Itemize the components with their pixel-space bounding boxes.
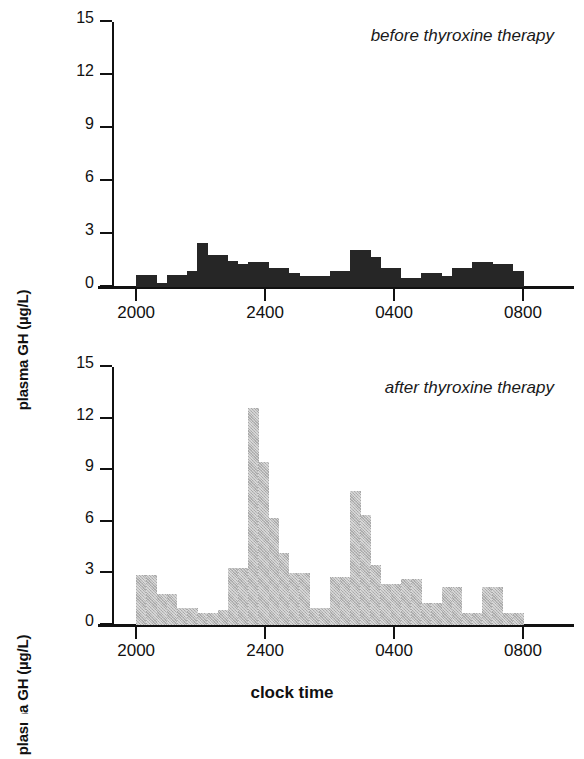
bar <box>279 268 290 287</box>
bar <box>146 575 157 625</box>
bar <box>136 275 147 287</box>
x-axis-label: clock time <box>0 683 584 703</box>
bar <box>207 255 218 287</box>
bar <box>360 515 371 625</box>
y-tick-12: 12 <box>100 417 112 419</box>
y-tick-label-6: 6 <box>85 168 94 186</box>
bar <box>452 587 463 625</box>
bar <box>197 243 208 287</box>
bar <box>289 573 300 625</box>
y-tick-label-0: 0 <box>85 274 94 292</box>
bar <box>350 491 361 625</box>
y-tick-15: 15 <box>100 20 112 22</box>
bar <box>411 278 422 287</box>
x-tick-2400: 2400 <box>264 626 266 639</box>
x-tick-label-0800: 0800 <box>504 641 542 661</box>
bar <box>157 594 168 625</box>
bar <box>228 261 239 288</box>
bar <box>492 587 503 625</box>
y-tick-label-15: 15 <box>76 9 94 27</box>
bar <box>258 462 269 625</box>
y-tick-label-3: 3 <box>85 221 94 239</box>
bar <box>299 573 310 625</box>
chart-panel-before: plasma GH (µg/L) before thyroxine therap… <box>0 0 584 340</box>
y-tick-0: 0 <box>100 285 112 287</box>
bar <box>431 273 442 287</box>
x-tick-0400: 0400 <box>393 626 395 639</box>
bar <box>309 276 320 287</box>
bar <box>482 262 493 287</box>
x-tick-0400: 0400 <box>393 288 395 301</box>
bar <box>136 575 147 625</box>
bar <box>167 594 178 625</box>
bar <box>157 283 168 287</box>
bar <box>391 268 402 287</box>
bar <box>289 273 300 287</box>
y-tick-0: 0 <box>100 623 112 625</box>
bar <box>340 577 351 625</box>
bar <box>228 568 239 625</box>
bar <box>269 518 280 625</box>
bar <box>360 250 371 287</box>
bar <box>431 603 442 625</box>
bar <box>299 276 310 287</box>
x-tick-label-0800: 0800 <box>504 303 542 323</box>
bar <box>340 271 351 287</box>
bar <box>187 608 198 625</box>
bar <box>218 255 229 287</box>
page-edge-artifact <box>0 714 584 723</box>
bar <box>503 613 514 625</box>
x-tick-label-2400: 2400 <box>246 641 284 661</box>
bar <box>258 262 269 287</box>
bar <box>401 278 412 287</box>
bar-series-after <box>112 367 552 625</box>
chart-panel-after: plasma GH (µg/L) after thyroxine therapy… <box>0 350 584 680</box>
x-tick-2000: 2000 <box>135 626 137 639</box>
y-tick-label-0: 0 <box>85 612 94 630</box>
bar-series-before <box>112 22 552 287</box>
y-tick-6: 6 <box>100 520 112 522</box>
bar <box>513 613 524 625</box>
bar <box>330 271 341 287</box>
bar <box>309 608 320 625</box>
y-tick-3: 3 <box>100 571 112 573</box>
x-tick-label-0400: 0400 <box>375 303 413 323</box>
bar <box>462 268 473 287</box>
bar <box>472 262 483 287</box>
y-tick-3: 3 <box>100 232 112 234</box>
bar <box>380 268 391 287</box>
bar <box>319 608 330 625</box>
plot-area-after: 03691215 2000240004000800 <box>112 367 552 625</box>
bar <box>452 268 463 287</box>
bar <box>238 264 249 287</box>
y-tick-12: 12 <box>100 73 112 75</box>
bar <box>472 613 483 625</box>
y-tick-label-9: 9 <box>85 115 94 133</box>
bar <box>401 579 412 625</box>
y-tick-6: 6 <box>100 179 112 181</box>
x-tick-label-2000: 2000 <box>117 641 155 661</box>
bar <box>492 264 503 287</box>
bar <box>319 276 330 287</box>
y-tick-9: 9 <box>100 468 112 470</box>
bar <box>248 262 259 287</box>
bar <box>197 613 208 625</box>
y-tick-label-3: 3 <box>85 560 94 578</box>
bar <box>269 268 280 287</box>
bar <box>177 608 188 625</box>
x-tick-2000: 2000 <box>135 288 137 301</box>
bar <box>238 568 249 625</box>
x-tick-2400: 2400 <box>264 288 266 301</box>
bar <box>248 408 259 625</box>
x-tick-label-2400: 2400 <box>246 303 284 323</box>
bar <box>482 587 493 625</box>
bar <box>218 610 229 625</box>
bar <box>391 584 402 625</box>
bar <box>370 565 381 625</box>
plot-area-before: 03691215 2000240004000800 <box>112 22 552 287</box>
bar <box>177 275 188 287</box>
bar <box>442 587 453 625</box>
bar <box>462 613 473 625</box>
bar <box>187 271 198 287</box>
